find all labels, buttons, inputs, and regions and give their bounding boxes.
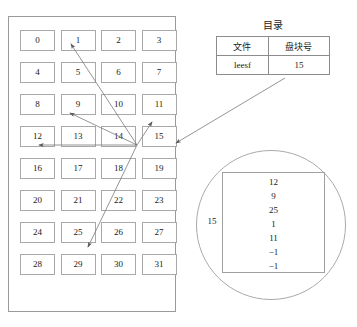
disk-block-18: 18 <box>101 158 136 179</box>
disk-block-19: 19 <box>142 158 177 179</box>
disk-block-3: 3 <box>142 30 177 51</box>
index-entry-3: 1 <box>223 217 324 231</box>
disk-block-13: 13 <box>61 126 96 147</box>
disk-block-28: 28 <box>20 254 55 275</box>
disk-block-22: 22 <box>101 190 136 211</box>
disk-block-4: 4 <box>20 62 55 83</box>
index-entry-5: −1 <box>223 245 324 259</box>
disk-block-23: 23 <box>142 190 177 211</box>
disk-block-0: 0 <box>20 30 55 51</box>
disk-block-2: 2 <box>101 30 136 51</box>
cell-block-number: 15 <box>268 56 329 75</box>
index-block-label: 15 <box>203 216 221 226</box>
disk-block-25: 25 <box>61 222 96 243</box>
index-entry-1: 9 <box>223 189 324 203</box>
disk-block-24: 24 <box>20 222 55 243</box>
column-header-file: 文件 <box>217 37 269 56</box>
cell-file-name: leesf <box>217 56 269 75</box>
disk-block-29: 29 <box>61 254 96 275</box>
index-entry-4: 11 <box>223 231 324 245</box>
arrow-directory-to-block-15 <box>176 78 285 143</box>
disk-block-10: 10 <box>101 94 136 115</box>
index-entry-list: 12925111−1−1 <box>223 175 324 273</box>
index-entry-6: −1 <box>223 259 324 273</box>
directory-table: 文件 盘块号 leesf 15 <box>216 36 330 75</box>
directory-title: 目录 <box>216 17 330 32</box>
disk-block-26: 26 <box>101 222 136 243</box>
disk-block-17: 17 <box>61 158 96 179</box>
disk-block-15: 15 <box>142 126 177 147</box>
disk-block-grid: 0123456789101112131415161718192021222324… <box>8 16 176 312</box>
disk-block-16: 16 <box>20 158 55 179</box>
disk-block-14: 14 <box>101 126 136 147</box>
table-row: leesf 15 <box>217 56 330 75</box>
disk-block-9: 9 <box>61 94 96 115</box>
disk-block-12: 12 <box>20 126 55 147</box>
disk-block-1: 1 <box>61 30 96 51</box>
disk-block-27: 27 <box>142 222 177 243</box>
diagram-canvas: 0123456789101112131415161718192021222324… <box>0 0 357 327</box>
disk-block-11: 11 <box>142 94 177 115</box>
disk-block-6: 6 <box>101 62 136 83</box>
disk-block-30: 30 <box>101 254 136 275</box>
table-header-row: 文件 盘块号 <box>217 37 330 56</box>
disk-block-5: 5 <box>61 62 96 83</box>
column-header-block: 盘块号 <box>268 37 329 56</box>
disk-block-7: 7 <box>142 62 177 83</box>
index-block-box: 12925111−1−1 <box>222 172 325 273</box>
disk-block-31: 31 <box>142 254 177 275</box>
index-entry-2: 25 <box>223 203 324 217</box>
index-entry-0: 12 <box>223 175 324 189</box>
disk-block-8: 8 <box>20 94 55 115</box>
disk-block-21: 21 <box>61 190 96 211</box>
disk-block-20: 20 <box>20 190 55 211</box>
